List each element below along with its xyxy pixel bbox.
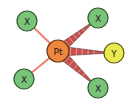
atom-ligand-x-0: X	[17, 11, 37, 31]
atom-ligand-y-2-label: Y	[110, 49, 117, 59]
atom-center-pt: Pt	[47, 40, 69, 62]
atom-ligand-x-4-label: X	[21, 75, 27, 85]
atom-ligand-x-3-label: X	[95, 84, 101, 94]
atom-ligand-x-4: X	[14, 69, 34, 89]
atom-ligand-y-2: Y	[104, 43, 124, 63]
molecule-diagram: XXYXXPt	[0, 0, 136, 109]
atom-ligand-x-3: X	[88, 78, 108, 98]
atoms: XXYXXPt	[14, 8, 124, 98]
bond-wedge-2	[64, 47, 106, 56]
atom-ligand-x-1: X	[88, 8, 108, 28]
atom-center-pt-label: Pt	[54, 47, 63, 57]
atom-ligand-x-0-label: X	[24, 17, 30, 27]
atom-ligand-x-1-label: X	[95, 14, 101, 24]
